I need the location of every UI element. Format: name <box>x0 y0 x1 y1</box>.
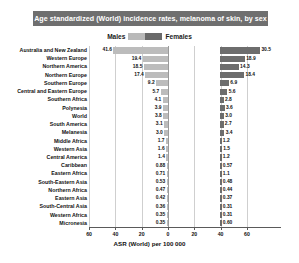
chart-legend: Males Females <box>0 31 299 42</box>
bar-value-males: 0.36 <box>154 204 166 210</box>
x-tick <box>247 227 248 230</box>
bar-females <box>220 47 260 53</box>
x-tick-label: 60 <box>86 231 92 237</box>
bar-value-females: 1.5 <box>222 146 231 152</box>
bar-males <box>167 220 169 226</box>
bar-males <box>167 212 169 218</box>
bar-value-females: 18.9 <box>245 56 257 62</box>
bar-value-females: 14.3 <box>239 64 251 70</box>
bar-value-males: 9.2 <box>147 80 156 86</box>
bar-value-males: 0.47 <box>154 187 166 193</box>
bar-males <box>166 146 168 152</box>
bar-males <box>156 80 168 86</box>
bar-males <box>167 179 169 185</box>
category-label: Micronesia <box>0 219 89 228</box>
bar-males <box>163 113 168 119</box>
bar-males <box>161 89 168 95</box>
bar-value-males: 3.0 <box>155 130 164 136</box>
bar-value-females: 1.2 <box>222 138 231 144</box>
bar-value-females: 5.6 <box>227 89 236 95</box>
x-tick-label: 40 <box>113 231 119 237</box>
plot-area: Australia and New Zealand41.630.5Western… <box>0 46 299 227</box>
bar-males <box>113 47 168 53</box>
legend-swatch-females <box>145 33 162 40</box>
bar-value-males: 19.4 <box>130 56 142 62</box>
bar-males <box>166 138 168 144</box>
bar-value-males: 4.1 <box>153 97 162 103</box>
bar-value-females: 3.4 <box>224 130 233 136</box>
bar-value-females: 3.6 <box>225 105 234 111</box>
bar-females <box>220 72 244 78</box>
bar-value-females: 3.0 <box>224 113 233 119</box>
bar-value-males: 3.9 <box>153 105 162 111</box>
x-tick-label: 0 <box>167 231 170 237</box>
bar-males <box>163 97 168 103</box>
bar-value-males: 0.35 <box>154 212 166 218</box>
bar-rows: Australia and New Zealand41.630.5Western… <box>0 46 299 227</box>
bar-value-males: 0.53 <box>154 179 166 185</box>
bar-value-females: 2.7 <box>224 121 233 127</box>
x-tick-label: 60 <box>244 231 250 237</box>
bar-value-males: 5.7 <box>151 89 160 95</box>
bar-value-males: 3.1 <box>155 121 164 127</box>
bar-value-females: 30.5 <box>260 47 272 53</box>
x-tick <box>221 227 222 230</box>
bar-males <box>164 121 168 127</box>
legend-label-females: Females <box>162 33 194 40</box>
bar-males <box>167 187 169 193</box>
bar-value-females: 0.31 <box>222 204 234 210</box>
bar-value-females: 0.31 <box>222 212 234 218</box>
x-tick <box>194 227 195 230</box>
chart-figure: Age standardized (World) incidence rates… <box>0 0 299 263</box>
x-tick-label: 20 <box>139 231 145 237</box>
bar-males <box>144 64 168 70</box>
bar-males <box>164 130 168 136</box>
bar-value-females: 0.48 <box>222 179 234 185</box>
bar-value-females: 1.2 <box>222 154 231 160</box>
x-tick-label: 40 <box>218 231 224 237</box>
bar-males <box>143 56 169 62</box>
bar-value-males: 0.71 <box>154 171 166 177</box>
bar-males <box>167 195 169 201</box>
bar-value-females: 0.44 <box>222 187 234 193</box>
bar-value-females: 18.4 <box>244 72 256 78</box>
bar-value-males: 17.4 <box>133 72 145 78</box>
bar-females <box>220 56 245 62</box>
chart-title: Age standardized (World) incidence rates… <box>33 11 268 26</box>
bar-value-females: 2.8 <box>224 97 233 103</box>
bar-value-females: 6.9 <box>229 80 238 86</box>
bar-value-males: 0.42 <box>154 195 166 201</box>
bar-value-females: 0.57 <box>222 163 234 169</box>
bar-value-males: 0.35 <box>154 220 166 226</box>
bar-value-males: 1.4 <box>157 154 166 160</box>
bar-males <box>167 204 169 210</box>
x-tick <box>115 227 116 230</box>
legend-label-males: Males <box>104 33 128 40</box>
x-axis-title: ASR (World) per 100 000 <box>0 240 299 247</box>
bar-value-males: 3.8 <box>154 113 163 119</box>
bar-value-males: 18.5 <box>132 64 144 70</box>
bar-females <box>220 89 227 95</box>
bar-males <box>163 105 168 111</box>
bar-males <box>167 171 169 177</box>
x-tick <box>142 227 143 230</box>
bar-females <box>220 80 229 86</box>
bar-value-females: 0.37 <box>222 195 234 201</box>
bar-males <box>145 72 168 78</box>
bar-value-males: 1.7 <box>156 138 165 144</box>
x-axis-line <box>89 227 281 228</box>
bar-males <box>166 154 168 160</box>
bar-females <box>220 64 239 70</box>
x-tick <box>89 227 90 230</box>
bar-value-females: 1.1 <box>222 171 231 177</box>
bar-value-males: 41.6 <box>101 47 113 53</box>
legend-swatch-males <box>128 33 145 40</box>
bar-value-males: 0.88 <box>154 163 166 169</box>
x-tick-label: 20 <box>191 231 197 237</box>
bar-value-males: 1.6 <box>157 146 166 152</box>
bar-males <box>167 163 169 169</box>
x-tick <box>168 227 169 230</box>
bar-value-females: 0.60 <box>222 220 234 226</box>
